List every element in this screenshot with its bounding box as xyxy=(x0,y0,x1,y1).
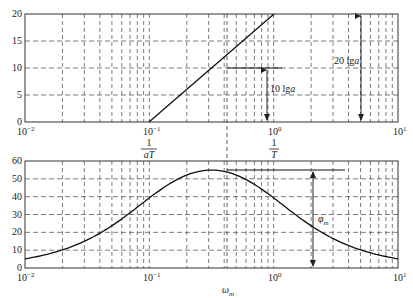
x-tick: 10−1 xyxy=(143,125,161,137)
y-tick: 10 xyxy=(12,62,22,73)
y-tick: 60 xyxy=(12,155,22,166)
y-tick: 20 xyxy=(12,226,22,237)
label-20lga: 20 lga xyxy=(334,55,359,66)
bottom-x-ticks: 10−2 10−1 100 101 xyxy=(17,271,407,283)
x-tick: 10−1 xyxy=(143,271,161,283)
x-tick: 10−2 xyxy=(17,125,35,137)
label-10lga: 10 lga xyxy=(270,83,295,94)
label-1-over-aT: 1 aT xyxy=(141,137,157,160)
label-1-over-T: 1 T xyxy=(269,137,279,160)
bottom-y-ticks: 0 10 20 30 40 50 60 xyxy=(12,155,22,273)
svg-text:1: 1 xyxy=(147,137,152,148)
x-tick: 101 xyxy=(393,125,407,137)
label-omega-m: ωm xyxy=(222,284,234,298)
top-x-ticks: 10−2 10−1 100 101 xyxy=(17,125,407,137)
svg-text:aT: aT xyxy=(144,149,156,160)
svg-text:1: 1 xyxy=(272,137,277,148)
bottom-plot-grid xyxy=(25,161,398,268)
svg-text:T: T xyxy=(271,149,278,160)
y-tick: 40 xyxy=(12,191,22,202)
y-tick: 5 xyxy=(17,89,22,100)
bode-figure: 0 5 10 15 20 10−2 10−1 100 101 0 10 20 3… xyxy=(0,0,413,298)
top-y-ticks: 0 5 10 15 20 xyxy=(12,8,22,127)
y-tick: 10 xyxy=(12,244,22,255)
y-tick: 50 xyxy=(12,173,22,184)
label-phi-m: φm xyxy=(318,213,329,227)
x-tick: 10−2 xyxy=(17,271,35,283)
y-tick: 15 xyxy=(12,35,22,46)
x-tick: 100 xyxy=(268,125,282,137)
x-tick: 101 xyxy=(393,271,407,283)
y-tick: 30 xyxy=(12,209,22,220)
x-tick: 100 xyxy=(268,271,282,283)
y-tick: 20 xyxy=(12,8,22,19)
